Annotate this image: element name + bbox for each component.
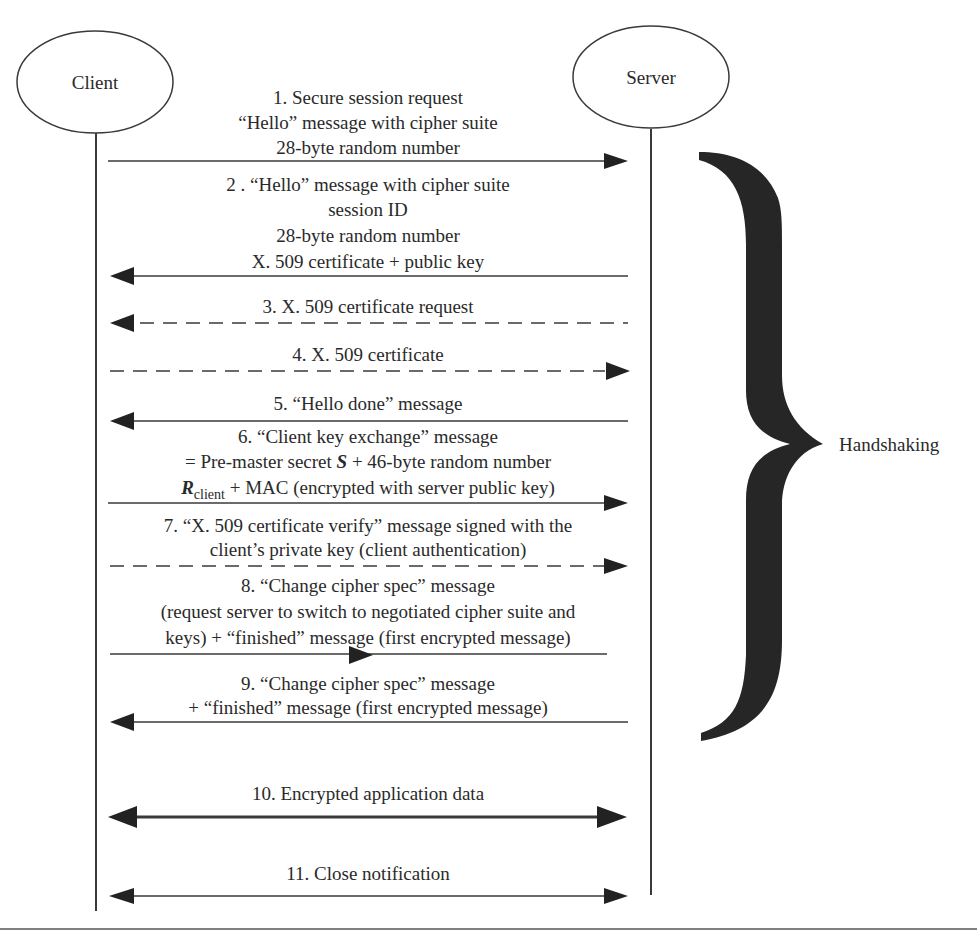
message-8: 8. “Change cipher spec” message (request… [110,575,607,664]
arrow-right-icon [597,806,627,828]
message-8-line-3: keys) + “finished” message (first encryp… [165,627,570,649]
message-6-line-2-suffix: + 46-byte random number [347,451,552,472]
message-6-line-1: 6. “Client key exchange” message [238,426,498,447]
message-2-line-3: 28-byte random number [276,225,460,246]
message-3: 3. X. 509 certificate request [110,296,628,332]
message-3-line-1: 3. X. 509 certificate request [262,296,474,317]
arrow-right-icon [604,888,628,904]
arrow-right-icon [606,362,630,380]
message-6-var-r-subscript: client [194,487,225,502]
message-2-line-1: 2 . “Hello” message with cipher suite [226,174,509,195]
message-11-line-1: 11. Close notification [286,863,450,884]
ssl-handshake-sequence-diagram: Client Server 1. Secure session request … [0,0,977,938]
arrow-left-icon [110,713,134,731]
message-6: 6. “Client key exchange” message = Pre-m… [108,426,628,511]
arrow-left-icon [108,806,137,828]
handshaking-group: Handshaking [699,152,940,741]
message-5-line-1: 5. “Hello done” message [274,393,463,414]
message-6-line-2: = Pre-master secret S + 46-byte random n… [185,451,552,472]
message-11: 11. Close notification [109,863,628,904]
message-9-line-1: 9. “Change cipher spec” message [241,673,495,694]
arrow-right-icon [349,646,373,664]
curly-brace-icon [699,152,823,741]
arrow-left-icon [110,412,134,430]
message-6-var-s: S [337,451,348,472]
message-5: 5. “Hello done” message [110,393,628,430]
message-2-line-4: X. 509 certificate + public key [252,251,485,272]
message-10-line-1: 10. Encrypted application data [252,783,485,804]
message-2-line-2: session ID [328,199,408,220]
arrow-left-icon [110,267,134,285]
arrow-left-icon [109,888,134,904]
arrow-left-icon [110,314,134,332]
message-4-line-1: 4. X. 509 certificate [292,344,443,365]
message-9: 9. “Change cipher spec” message + “finis… [110,673,628,731]
message-8-line-1: 8. “Change cipher spec” message [241,575,495,596]
message-7: 7. “X. 509 certificate verify” message s… [110,515,628,574]
message-6-line-3: Rclient + MAC (encrypted with server pub… [180,477,555,502]
client-participant: Client [17,31,173,911]
arrow-right-icon [604,558,628,574]
message-6-line-3-suffix: + MAC (encrypted with server public key) [225,477,555,499]
message-1: 1. Secure session request “Hello” messag… [108,87,628,169]
message-6-line-2-prefix: = Pre-master secret [185,451,337,472]
server-label: Server [626,67,676,88]
message-7-line-1: 7. “X. 509 certificate verify” message s… [164,515,572,536]
message-1-line-2: “Hello” message with cipher suite [238,112,498,133]
message-2: 2 . “Hello” message with cipher suite se… [110,174,628,285]
message-8-line-2: (request server to switch to negotiated … [161,601,576,623]
message-6-var-r: R [180,477,194,498]
message-10: 10. Encrypted application data [108,783,627,828]
message-4: 4. X. 509 certificate [110,344,630,380]
arrow-right-icon [604,495,628,511]
handshaking-label: Handshaking [839,434,940,455]
arrow-right-icon [604,153,628,169]
message-1-line-3: 28-byte random number [276,137,460,158]
message-1-line-1: 1. Secure session request [273,87,464,108]
message-9-line-2: + “finished” message (first encrypted me… [188,697,547,719]
client-label: Client [72,72,119,93]
message-7-line-2: client’s private key (client authenticat… [210,539,527,561]
